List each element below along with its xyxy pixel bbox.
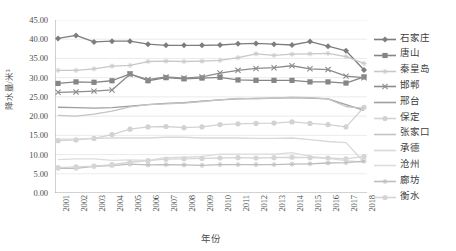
legend-label: 衡水 xyxy=(400,188,420,202)
legend-item[interactable]: 秦皇岛 xyxy=(374,61,430,76)
data-point xyxy=(325,43,331,49)
data-point xyxy=(145,124,150,129)
data-point xyxy=(235,121,240,126)
legend-marker-icon xyxy=(374,110,396,121)
x-tick-label: 2016 xyxy=(332,195,341,212)
legend-item[interactable]: 沧州 xyxy=(374,155,420,170)
legend-item[interactable]: 廊坊 xyxy=(374,171,420,186)
data-point xyxy=(181,59,186,64)
series-9 xyxy=(55,158,366,171)
x-tick-label: 2006 xyxy=(152,195,161,212)
data-point xyxy=(307,51,312,56)
data-point xyxy=(235,41,241,47)
plot-area xyxy=(55,20,367,193)
data-point xyxy=(271,120,276,125)
x-tick-label: 2011 xyxy=(242,195,251,211)
data-point xyxy=(181,125,186,130)
data-point xyxy=(271,162,276,167)
x-tick-label: 2001 xyxy=(62,195,71,212)
data-point xyxy=(307,79,312,84)
data-point xyxy=(343,80,348,85)
data-point xyxy=(127,160,132,165)
data-point xyxy=(127,63,132,68)
series-line xyxy=(58,97,364,116)
legend-marker-icon xyxy=(374,63,396,74)
x-tick-label: 2005 xyxy=(134,195,143,212)
data-point xyxy=(382,68,387,73)
legend-marker-icon xyxy=(374,173,396,184)
data-point xyxy=(73,68,78,73)
y-tick-label: 5.00 xyxy=(34,170,48,179)
data-point xyxy=(343,124,348,129)
data-point xyxy=(109,78,114,83)
legend-item[interactable]: 唐山 xyxy=(374,45,420,60)
legend-item[interactable]: 衡水 xyxy=(374,187,420,202)
data-point xyxy=(307,161,312,166)
data-point xyxy=(325,160,330,165)
legend-item[interactable]: 邯郸 xyxy=(374,76,420,91)
x-tick-label: 2007 xyxy=(170,195,179,212)
legend-label: 保定 xyxy=(400,109,420,123)
data-point xyxy=(145,41,151,47)
data-point xyxy=(235,55,240,60)
y-tick-label: 40.00 xyxy=(29,35,48,44)
series-line xyxy=(58,35,364,70)
data-point xyxy=(325,122,330,127)
data-point xyxy=(289,52,294,57)
data-point xyxy=(55,165,60,170)
data-point xyxy=(289,162,294,167)
legend-item[interactable]: 保定 xyxy=(374,108,420,123)
legend-label: 承德 xyxy=(400,140,420,154)
series-0 xyxy=(55,32,367,73)
data-point xyxy=(271,41,277,47)
legend-marker-icon xyxy=(374,126,396,137)
legend-item[interactable]: 承德 xyxy=(374,140,420,155)
legend-label: 唐山 xyxy=(400,45,420,59)
data-point xyxy=(73,79,78,84)
legend-item[interactable]: 张家口 xyxy=(374,124,430,139)
legend-item[interactable]: 邢台 xyxy=(374,92,420,107)
data-point xyxy=(289,155,294,160)
data-point xyxy=(91,66,96,71)
y-tick-label: 35.00 xyxy=(29,54,48,63)
data-point xyxy=(253,121,258,126)
x-tick-label: 2012 xyxy=(260,195,269,212)
data-point xyxy=(235,155,240,160)
data-point xyxy=(163,157,168,162)
series-line xyxy=(58,98,364,111)
legend-label: 石家庄 xyxy=(400,30,430,44)
data-point xyxy=(73,164,78,169)
legend-item[interactable]: 石家庄 xyxy=(374,29,430,44)
data-point xyxy=(361,158,366,163)
legend-marker-icon xyxy=(374,142,396,153)
y-tick-label: 20.00 xyxy=(29,112,48,121)
legend-label: 沧州 xyxy=(400,156,420,170)
data-point xyxy=(325,155,330,160)
data-point xyxy=(181,42,187,48)
legend-marker-icon xyxy=(374,78,396,89)
data-point xyxy=(217,162,222,167)
y-axis-title: 降水量/米³ xyxy=(2,55,14,125)
data-point xyxy=(91,163,96,168)
data-point xyxy=(217,155,222,160)
data-point xyxy=(145,158,150,163)
data-point xyxy=(382,116,387,121)
x-axis-title: 年份 xyxy=(55,231,367,245)
data-point xyxy=(253,51,258,56)
data-point xyxy=(199,124,204,129)
series-line xyxy=(58,66,364,93)
data-point xyxy=(382,195,387,200)
x-tick-label: 2017 xyxy=(350,195,359,212)
x-tick-label: 2010 xyxy=(224,195,233,212)
data-point xyxy=(271,53,276,58)
chart-root: 0.005.0010.0015.0020.0025.0030.0035.0040… xyxy=(0,0,456,251)
data-point xyxy=(217,58,222,63)
data-point xyxy=(271,78,276,83)
legend-label: 邢台 xyxy=(400,93,420,107)
data-point xyxy=(382,179,387,184)
x-tick-label: 2013 xyxy=(278,195,287,212)
data-point xyxy=(199,163,204,168)
data-point xyxy=(307,155,312,160)
x-axis: 2001200220032004200520062007200820092010… xyxy=(55,195,367,229)
series-line xyxy=(58,53,364,70)
